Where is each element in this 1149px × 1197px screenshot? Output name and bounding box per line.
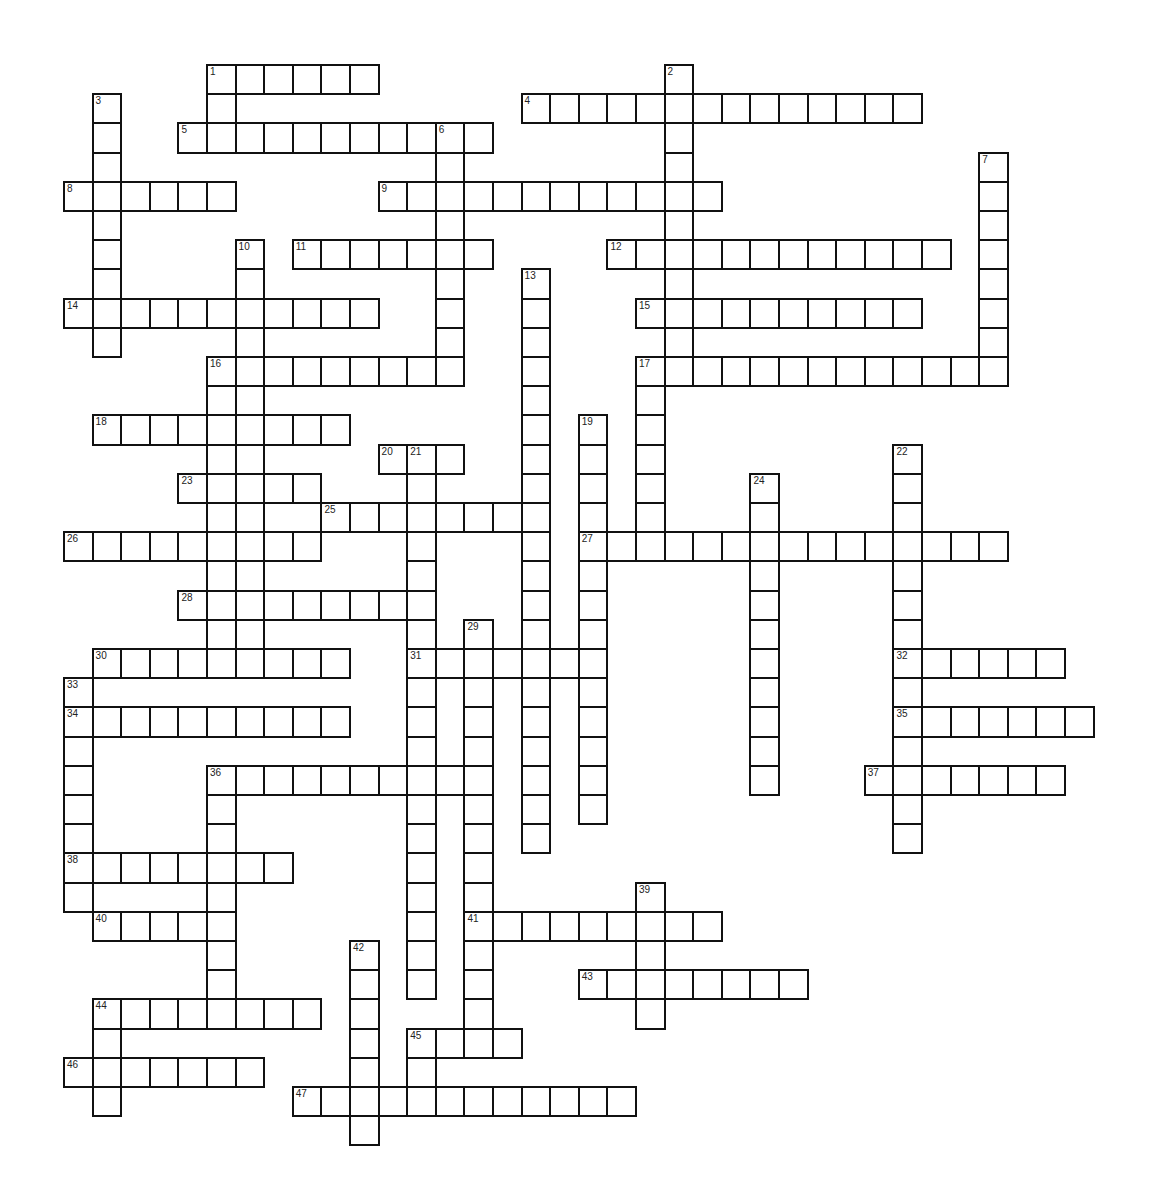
cell-input[interactable] — [437, 183, 464, 210]
crossword-cell[interactable] — [492, 502, 523, 533]
cell-input[interactable] — [294, 592, 321, 619]
crossword-cell[interactable] — [892, 560, 923, 591]
cell-input[interactable] — [179, 416, 206, 443]
crossword-cell[interactable] — [749, 531, 780, 562]
crossword-cell[interactable]: 41 — [463, 911, 494, 942]
crossword-cell[interactable] — [492, 911, 523, 942]
crossword-cell[interactable] — [120, 298, 151, 329]
cell-input[interactable] — [580, 679, 607, 706]
crossword-cell[interactable] — [892, 356, 923, 387]
crossword-cell[interactable] — [578, 706, 609, 737]
cell-input[interactable] — [751, 592, 778, 619]
crossword-cell[interactable] — [92, 531, 123, 562]
cell-input[interactable] — [580, 416, 607, 443]
cell-input[interactable] — [322, 358, 349, 385]
cell-input[interactable] — [179, 300, 206, 327]
crossword-cell[interactable] — [521, 298, 552, 329]
cell-input[interactable] — [122, 913, 149, 940]
crossword-cell[interactable] — [406, 1057, 437, 1088]
crossword-cell[interactable] — [235, 590, 266, 621]
crossword-cell[interactable] — [521, 473, 552, 504]
crossword-cell[interactable] — [578, 911, 609, 942]
crossword-cell[interactable] — [206, 706, 237, 737]
cell-input[interactable] — [437, 1088, 464, 1115]
crossword-cell[interactable] — [978, 327, 1009, 358]
cell-input[interactable] — [437, 650, 464, 677]
cell-input[interactable] — [694, 971, 721, 998]
crossword-cell[interactable] — [721, 356, 752, 387]
crossword-cell[interactable] — [892, 502, 923, 533]
cell-input[interactable] — [694, 358, 721, 385]
crossword-cell[interactable] — [864, 356, 895, 387]
crossword-cell[interactable] — [978, 239, 1009, 270]
cell-input[interactable] — [723, 971, 750, 998]
cell-input[interactable] — [523, 592, 550, 619]
crossword-cell[interactable] — [206, 414, 237, 445]
cell-input[interactable] — [894, 796, 921, 823]
cell-input[interactable] — [380, 241, 407, 268]
cell-input[interactable] — [894, 358, 921, 385]
cell-input[interactable] — [523, 533, 550, 560]
crossword-cell[interactable] — [120, 998, 151, 1029]
cell-input[interactable] — [952, 358, 979, 385]
cell-input[interactable] — [894, 504, 921, 531]
crossword-cell[interactable]: 6 — [435, 122, 466, 153]
crossword-cell[interactable] — [206, 560, 237, 591]
crossword-cell[interactable] — [206, 998, 237, 1029]
crossword-cell[interactable] — [463, 736, 494, 767]
cell-input[interactable] — [408, 942, 435, 969]
crossword-cell[interactable]: 36 — [206, 765, 237, 796]
crossword-cell[interactable] — [1035, 765, 1066, 796]
crossword-cell[interactable]: 25 — [320, 502, 351, 533]
crossword-cell[interactable]: 30 — [92, 648, 123, 679]
crossword-cell[interactable]: 24 — [749, 473, 780, 504]
crossword-cell[interactable] — [921, 239, 952, 270]
cell-input[interactable] — [151, 650, 178, 677]
crossword-cell[interactable]: 2 — [664, 64, 695, 95]
cell-input[interactable] — [208, 300, 235, 327]
crossword-cell[interactable]: 17 — [635, 356, 666, 387]
crossword-cell[interactable] — [721, 93, 752, 124]
cell-input[interactable] — [408, 884, 435, 911]
crossword-cell[interactable] — [149, 852, 180, 883]
cell-input[interactable] — [122, 183, 149, 210]
cell-input[interactable] — [294, 533, 321, 560]
crossword-cell[interactable] — [749, 502, 780, 533]
crossword-cell[interactable] — [549, 181, 580, 212]
crossword-cell[interactable] — [521, 677, 552, 708]
crossword-cell[interactable] — [92, 210, 123, 241]
cell-input[interactable] — [151, 854, 178, 881]
cell-input[interactable] — [237, 475, 264, 502]
crossword-cell[interactable]: 32 — [892, 648, 923, 679]
cell-input[interactable] — [237, 854, 264, 881]
crossword-cell[interactable] — [807, 531, 838, 562]
cell-input[interactable] — [322, 767, 349, 794]
cell-input[interactable] — [408, 913, 435, 940]
crossword-cell[interactable] — [835, 356, 866, 387]
cell-input[interactable] — [351, 592, 378, 619]
crossword-cell[interactable]: 18 — [92, 414, 123, 445]
crossword-cell[interactable] — [435, 268, 466, 299]
cell-input[interactable] — [179, 854, 206, 881]
cell-input[interactable] — [1037, 708, 1064, 735]
cell-input[interactable] — [265, 358, 292, 385]
crossword-cell[interactable] — [349, 969, 380, 1000]
cell-input[interactable] — [65, 767, 92, 794]
crossword-cell[interactable]: 5 — [177, 122, 208, 153]
cell-input[interactable] — [237, 533, 264, 560]
crossword-cell[interactable] — [892, 794, 923, 825]
crossword-cell[interactable]: 15 — [635, 298, 666, 329]
cell-input[interactable] — [179, 913, 206, 940]
crossword-cell[interactable] — [721, 239, 752, 270]
cell-input[interactable] — [208, 1000, 235, 1027]
cell-input[interactable] — [894, 708, 921, 735]
crossword-cell[interactable] — [120, 706, 151, 737]
cell-input[interactable] — [380, 592, 407, 619]
cell-input[interactable] — [580, 708, 607, 735]
crossword-cell[interactable] — [521, 327, 552, 358]
cell-input[interactable] — [608, 241, 635, 268]
cell-input[interactable] — [980, 270, 1007, 297]
crossword-cell[interactable] — [406, 823, 437, 854]
cell-input[interactable] — [980, 533, 1007, 560]
crossword-cell[interactable] — [378, 765, 409, 796]
